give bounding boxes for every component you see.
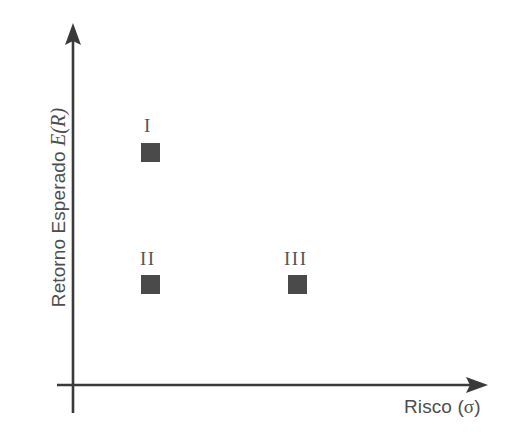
y-axis-title-symbol: E(R) [47, 108, 69, 146]
data-point-marker-2[interactable] [141, 275, 160, 294]
risk-return-scatter-chart: Retorno Esperado E(R) Risco (σ) I II III [0, 0, 524, 438]
y-axis-title-text: Retorno Esperado [48, 146, 69, 307]
x-axis-title-close: ) [474, 396, 480, 417]
data-point-label-2: II [140, 249, 156, 268]
x-axis-title: Risco (σ) [404, 396, 481, 418]
x-axis-group [57, 377, 488, 393]
x-axis-title-text: Risco ( [404, 396, 464, 417]
x-axis-title-symbol: σ [464, 396, 474, 417]
data-point-marker-3[interactable] [288, 275, 307, 294]
data-point-marker-1[interactable] [141, 143, 160, 162]
data-point-label-1: I [144, 116, 152, 135]
data-point-label-3: III [284, 249, 307, 268]
chart-axes-svg [0, 0, 524, 438]
y-axis-title: Retorno Esperado E(R) [47, 58, 70, 358]
